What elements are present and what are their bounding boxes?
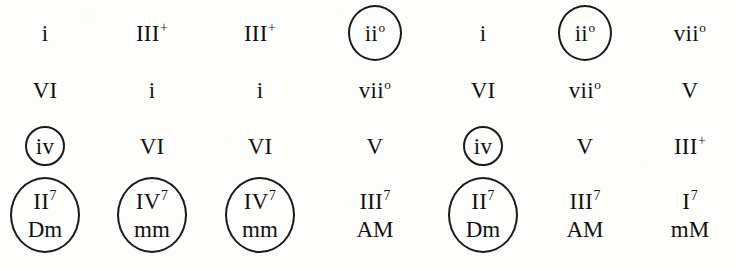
chord-cell-r4-c2: IV7mm — [134, 190, 170, 241]
roman-numeral: VI — [248, 134, 273, 159]
roman-numeral: i — [149, 78, 156, 103]
chord-quality-label: AM — [566, 218, 603, 241]
roman-numeral: vii — [569, 78, 594, 103]
chord-symbol: V — [682, 79, 699, 102]
chord-cell-r2-c2: i — [149, 79, 156, 102]
chord-grid-figure: iIII+III+iioiiioviioVIiiviioVIviioVivVIV… — [0, 0, 735, 270]
chord-cell-r3-c5: iv — [474, 135, 492, 158]
chord-symbol: i — [257, 79, 264, 102]
chord-cell-r4-c6: III7AM — [566, 190, 603, 241]
chord-symbol: VI — [140, 135, 165, 158]
roman-numeral: I — [682, 189, 690, 214]
chord-symbol: VI — [33, 79, 58, 102]
roman-numeral: iv — [36, 134, 54, 159]
diminished-symbol: o — [699, 20, 706, 35]
chord-cell-r1-c6: iio — [575, 22, 596, 45]
roman-numeral: III — [136, 21, 160, 46]
roman-numeral: IV — [136, 189, 161, 214]
chord-cell-r3-c7: III+ — [674, 135, 706, 158]
diminished-symbol: o — [594, 77, 601, 92]
chord-symbol: iv — [474, 135, 492, 158]
chord-quality-label: mm — [134, 218, 170, 241]
roman-numeral: V — [577, 134, 594, 159]
chord-cell-r3-c4: V — [367, 135, 384, 158]
chord-symbol: iio — [575, 22, 596, 45]
chord-cell-r3-c2: VI — [140, 135, 165, 158]
roman-numeral: vii — [359, 78, 384, 103]
chord-symbol: iio — [365, 22, 386, 45]
seventh-symbol: 7 — [488, 188, 495, 203]
diminished-symbol: o — [384, 77, 391, 92]
chord-quality-label: mm — [242, 218, 278, 241]
chord-cell-r1-c7: viio — [674, 22, 706, 45]
roman-numeral: i — [42, 21, 49, 46]
chord-symbol: iv — [36, 135, 54, 158]
chord-symbol: VI — [471, 79, 496, 102]
chord-quality-label: Dm — [28, 218, 63, 241]
seventh-symbol: 7 — [593, 188, 600, 203]
chord-symbol: viio — [674, 22, 706, 45]
augmented-symbol: + — [160, 20, 168, 35]
chord-quality-label: AM — [356, 218, 393, 241]
roman-numeral: VI — [471, 78, 496, 103]
chord-cell-r4-c3: IV7mm — [242, 190, 278, 241]
chord-cell-r2-c1: VI — [33, 79, 58, 102]
chord-quality-label: Dm — [466, 218, 501, 241]
seventh-symbol: 7 — [269, 188, 276, 203]
roman-numeral: i — [257, 78, 264, 103]
roman-numeral: II — [471, 189, 487, 214]
chord-symbol: III+ — [674, 135, 706, 158]
roman-numeral: ii — [365, 21, 378, 46]
chord-symbol: i — [480, 22, 487, 45]
chord-symbol: VI — [248, 135, 273, 158]
chord-cell-r3-c6: V — [577, 135, 594, 158]
augmented-symbol: + — [268, 20, 276, 35]
roman-numeral: VI — [140, 134, 165, 159]
roman-numeral: II — [33, 189, 49, 214]
roman-numeral: VI — [33, 78, 58, 103]
roman-numeral: III — [244, 21, 268, 46]
chord-cell-r4-c4: III7AM — [356, 190, 393, 241]
chord-symbol: III+ — [244, 22, 276, 45]
chord-symbol: III7 — [569, 190, 600, 213]
chord-symbol: IV7 — [136, 190, 168, 213]
roman-numeral: i — [480, 21, 487, 46]
diminished-symbol: o — [588, 20, 595, 35]
chord-symbol: I7 — [682, 190, 697, 213]
chord-cell-r3-c3: VI — [248, 135, 273, 158]
seventh-symbol: 7 — [161, 188, 168, 203]
diminished-symbol: o — [378, 20, 385, 35]
chord-cell-r2-c3: i — [257, 79, 264, 102]
chord-cell-r1-c5: i — [480, 22, 487, 45]
roman-numeral: V — [682, 78, 699, 103]
seventh-symbol: 7 — [50, 188, 57, 203]
seventh-symbol: 7 — [691, 188, 698, 203]
chord-symbol: III+ — [136, 22, 168, 45]
chord-cell-r2-c5: VI — [471, 79, 496, 102]
chord-cell-r2-c7: V — [682, 79, 699, 102]
chord-cell-r1-c3: III+ — [244, 22, 276, 45]
chord-quality-label: mM — [671, 218, 709, 241]
seventh-symbol: 7 — [383, 188, 390, 203]
chord-cell-r3-c1: iv — [36, 135, 54, 158]
roman-numeral: III — [569, 189, 593, 214]
chord-symbol: viio — [359, 79, 391, 102]
chord-cell-r4-c7: I7mM — [671, 190, 709, 241]
chord-cell-r1-c1: i — [42, 22, 49, 45]
chord-cell-r1-c4: iio — [365, 22, 386, 45]
chord-symbol: V — [367, 135, 384, 158]
chord-symbol: III7 — [359, 190, 390, 213]
chord-symbol: V — [577, 135, 594, 158]
roman-numeral: IV — [244, 189, 269, 214]
chord-symbol: II7 — [471, 190, 494, 213]
chord-cell-r4-c1: II7Dm — [28, 190, 63, 241]
roman-numeral: III — [359, 189, 383, 214]
chord-cell-r2-c6: viio — [569, 79, 601, 102]
roman-numeral: III — [674, 134, 698, 159]
chord-symbol: i — [149, 79, 156, 102]
chord-symbol: II7 — [33, 190, 56, 213]
roman-numeral: vii — [674, 21, 699, 46]
augmented-symbol: + — [698, 133, 706, 148]
chord-cell-r1-c2: III+ — [136, 22, 168, 45]
chord-cell-r4-c5: II7Dm — [466, 190, 501, 241]
